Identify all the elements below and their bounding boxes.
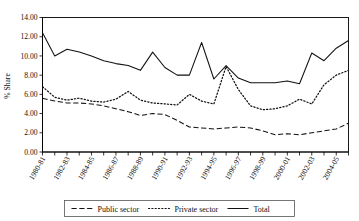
chart-legend: Public sectorPrivate sectorTotal: [65, 201, 295, 217]
y-tick-label: 0.00: [24, 148, 37, 157]
y-tick-label: 12.00: [20, 32, 37, 41]
x-tick-label: 1994-95: [198, 155, 219, 182]
x-tick-label: 2004-05: [321, 155, 342, 182]
y-tick-label: 8.00: [24, 71, 37, 80]
legend-label-public-sector: Public sector: [98, 205, 140, 214]
x-axis: 1980-811982-831984-851986-871988-891990-…: [27, 152, 349, 181]
y-tick-label: 2.00: [24, 128, 37, 137]
line-chart: % Share 0.002.004.006.008.0010.0012.0014…: [0, 0, 359, 221]
x-tick-label: 1982-83: [51, 155, 72, 182]
series-line-total: [43, 33, 349, 84]
x-tick-label: 2000-01: [272, 155, 293, 182]
y-tick-label: 6.00: [24, 90, 37, 99]
x-tick-label: 1990-91: [149, 155, 170, 182]
legend-label-private-sector: Private sector: [175, 205, 219, 214]
x-tick-label: 1986-87: [100, 155, 121, 182]
x-tick-label: 1988-89: [125, 155, 146, 182]
x-tick-label: 1996-97: [223, 155, 244, 182]
y-tick-label: 4.00: [24, 109, 37, 118]
y-tick-label: 14.00: [20, 13, 37, 22]
x-tick-label: 1980-81: [27, 155, 48, 182]
x-tick-label: 1992-93: [174, 155, 195, 182]
chart-container: % Share 0.002.004.006.008.0010.0012.0014…: [0, 0, 359, 221]
series-line-public-sector: [43, 98, 349, 135]
y-axis-title: % Share: [3, 73, 12, 99]
y-axis-title-group: % Share: [3, 73, 12, 99]
plot-frame: [43, 18, 349, 153]
x-tick-label: 1984-85: [76, 155, 97, 182]
x-tick-label: 2002-03: [296, 155, 317, 182]
series-group: [43, 33, 349, 135]
series-line-private-sector: [43, 67, 349, 110]
y-tick-label: 10.00: [20, 52, 37, 61]
y-axis: 0.002.004.006.008.0010.0012.0014.00: [20, 13, 42, 157]
x-tick-label: 1998-99: [247, 155, 268, 182]
legend-label-total: Total: [254, 205, 271, 214]
